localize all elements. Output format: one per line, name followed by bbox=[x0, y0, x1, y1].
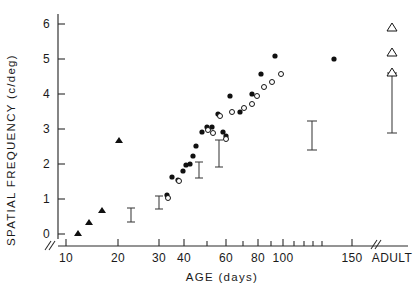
error-bar bbox=[195, 162, 203, 178]
data-point-open bbox=[230, 110, 235, 115]
error-bar bbox=[215, 140, 223, 167]
data-point-triangle bbox=[74, 230, 82, 236]
error-bar-adult bbox=[387, 73, 397, 133]
data-point-open bbox=[166, 196, 171, 201]
error-bar bbox=[155, 196, 163, 209]
filled-triangle-series bbox=[74, 137, 123, 236]
data-point-filled bbox=[193, 143, 198, 148]
data-point-filled bbox=[237, 109, 242, 114]
data-point-open bbox=[177, 179, 182, 184]
y-tick-label-0: 0 bbox=[43, 227, 50, 241]
data-point-filled bbox=[169, 174, 174, 179]
x-tick-label-20: 20 bbox=[111, 251, 125, 265]
filled-circle-series bbox=[164, 53, 336, 197]
y-tick-label-2: 2 bbox=[43, 157, 50, 171]
y-tick-label-5: 5 bbox=[43, 52, 50, 66]
x-tick-label-40: 40 bbox=[177, 251, 191, 265]
data-point-filled bbox=[199, 129, 204, 134]
y-tick-label-1: 1 bbox=[43, 192, 50, 206]
y-tick-label-6: 6 bbox=[43, 17, 50, 31]
data-point-triangle bbox=[85, 219, 93, 225]
y-tick-label-4: 4 bbox=[43, 87, 50, 101]
data-point-open bbox=[270, 80, 275, 85]
data-point-filled bbox=[190, 153, 195, 158]
data-point-open bbox=[250, 102, 255, 107]
data-point-open bbox=[262, 85, 267, 90]
x-tick-label-100: 100 bbox=[272, 251, 293, 265]
scatter-plot-svg: 0 1 2 3 4 5 6 10 20 bbox=[0, 0, 416, 291]
data-point-open bbox=[211, 131, 216, 136]
x-axis-label: AGE (days) bbox=[186, 271, 258, 283]
x-tick-label-30: 30 bbox=[152, 251, 166, 265]
y-tick-labels: 0 1 2 3 4 5 6 bbox=[43, 17, 50, 241]
y-tick-group bbox=[58, 24, 65, 234]
open-triangle-series bbox=[387, 23, 397, 76]
x-tick-label-80: 80 bbox=[251, 251, 265, 265]
data-point-open bbox=[255, 94, 260, 99]
data-point-open bbox=[224, 137, 229, 142]
x-tick-label-10: 10 bbox=[59, 251, 73, 265]
y-axis-label: SPATIAL FREQUENCY (c/deg) bbox=[5, 54, 17, 246]
axes-group bbox=[45, 14, 408, 250]
data-point-open bbox=[242, 106, 247, 111]
data-point-open bbox=[218, 114, 223, 119]
data-point-triangle bbox=[115, 137, 123, 143]
data-point-open-triangle bbox=[387, 68, 397, 76]
x-tick-label-150: 150 bbox=[341, 251, 362, 265]
data-point-filled bbox=[331, 56, 336, 61]
data-point-filled bbox=[258, 71, 263, 76]
data-point-triangle bbox=[98, 207, 106, 213]
data-point-filled bbox=[187, 161, 192, 166]
x-tick-labels: 10 20 30 40 60 80 100 150 ADULT bbox=[59, 251, 413, 265]
chart-figure: 0 1 2 3 4 5 6 10 20 bbox=[0, 0, 416, 291]
data-point-filled bbox=[180, 168, 185, 173]
axis-break-origin-icon bbox=[45, 241, 55, 250]
axis-break-adult-icon bbox=[371, 240, 381, 249]
data-point-open-triangle bbox=[387, 48, 397, 56]
error-bar bbox=[307, 121, 317, 150]
data-point-open bbox=[206, 128, 211, 133]
x-tick-group bbox=[66, 239, 352, 246]
data-point-filled bbox=[272, 53, 277, 58]
data-point-filled bbox=[227, 93, 232, 98]
data-point-filled bbox=[249, 91, 254, 96]
x-tick-label-60: 60 bbox=[219, 251, 233, 265]
y-tick-label-3: 3 bbox=[43, 122, 50, 136]
data-point-open-triangle bbox=[387, 23, 397, 31]
data-point-open bbox=[279, 72, 284, 77]
error-bar bbox=[127, 208, 135, 222]
x-tick-label-adult: ADULT bbox=[372, 251, 413, 265]
